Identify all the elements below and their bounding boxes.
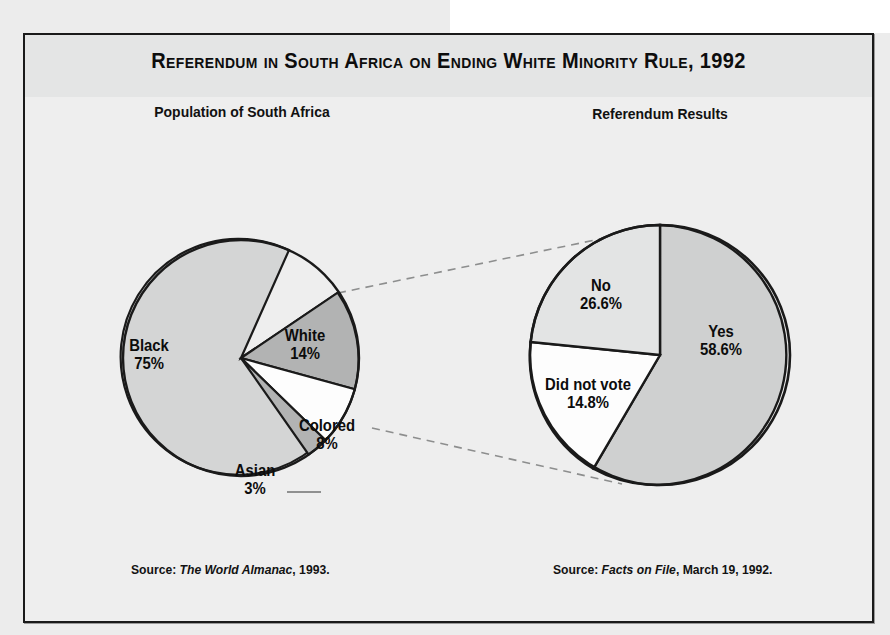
pie-label-colored: Colored 8% bbox=[287, 417, 368, 453]
pie-label-asian-pct: 3% bbox=[225, 480, 284, 498]
source-referendum-suffix: , March 19, 1992. bbox=[676, 562, 773, 577]
page-background-notch bbox=[450, 0, 890, 33]
pie-label-no: No 26.6% bbox=[570, 277, 633, 313]
pie-label-asian: Asian 3% bbox=[225, 462, 284, 498]
page-title: Referendum in South Africa on Ending Whi… bbox=[55, 49, 843, 74]
pie-label-did-not-vote: Did not vote 14.8% bbox=[539, 376, 638, 412]
pie-label-yes-name: Yes bbox=[708, 322, 734, 340]
pie-label-yes: Yes 58.6% bbox=[685, 323, 757, 359]
source-population-title: The World Almanac bbox=[180, 562, 293, 577]
pie-label-colored-pct: 8% bbox=[287, 435, 368, 453]
source-referendum-title: Facts on File bbox=[602, 562, 676, 577]
source-population: Source: The World Almanac, 1993. bbox=[131, 562, 330, 577]
pie-label-white-name: White bbox=[285, 326, 325, 344]
pie-label-black-name: Black bbox=[129, 336, 169, 354]
pie-label-did-not-vote-name: Did not vote bbox=[545, 375, 631, 393]
pie-label-colored-name: Colored bbox=[299, 416, 355, 434]
pie-label-did-not-vote-pct: 14.8% bbox=[539, 394, 638, 412]
source-population-prefix: Source: bbox=[131, 562, 180, 577]
panel-subtitle-referendum: Referendum Results bbox=[557, 105, 764, 123]
pie-label-no-pct: 26.6% bbox=[570, 295, 633, 313]
pie-label-no-name: No bbox=[591, 276, 611, 294]
pie-label-black-pct: 75% bbox=[109, 355, 190, 373]
source-referendum: Source: Facts on File, March 19, 1992. bbox=[553, 562, 772, 577]
source-referendum-prefix: Source: bbox=[553, 562, 602, 577]
panel-subtitle-population: Population of South Africa bbox=[129, 103, 356, 121]
pie-label-black: Black 75% bbox=[109, 337, 190, 373]
pie-label-asian-name: Asian bbox=[235, 461, 275, 479]
source-population-suffix: , 1993. bbox=[292, 562, 329, 577]
pie-label-white: White 14% bbox=[269, 327, 341, 363]
pie-label-white-pct: 14% bbox=[269, 345, 341, 363]
pie-label-yes-pct: 58.6% bbox=[685, 341, 757, 359]
